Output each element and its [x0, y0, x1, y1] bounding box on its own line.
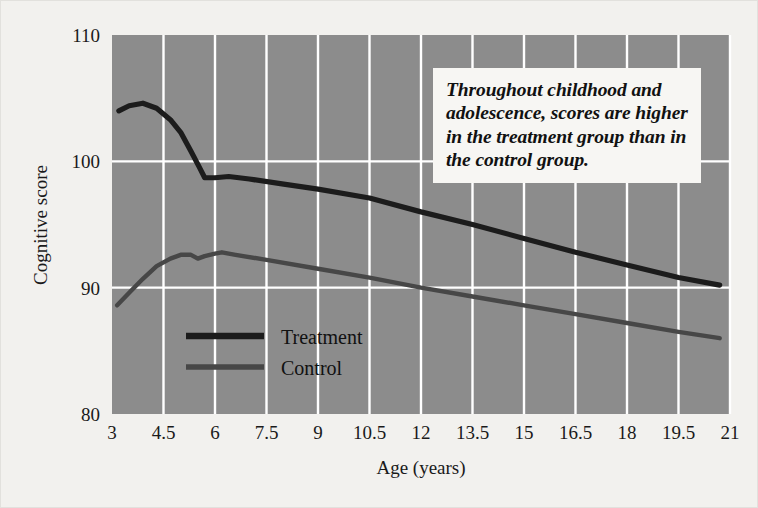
x-axis-tick-labels: 34.567.5910.51213.51516.51819.521: [107, 422, 739, 443]
x-tick-label: 18: [618, 422, 637, 443]
x-tick-label: 9: [313, 422, 323, 443]
x-tick-label: 19.5: [662, 422, 695, 443]
x-tick-label: 6: [210, 422, 220, 443]
legend-label: Control: [281, 357, 343, 379]
x-tick-label: 7.5: [255, 422, 279, 443]
y-tick-label: 110: [72, 25, 100, 46]
y-tick-label: 100: [72, 151, 101, 172]
x-tick-label: 21: [721, 422, 740, 443]
x-tick-label: 15: [515, 422, 534, 443]
y-axis-title: Cognitive score: [30, 165, 51, 285]
legend-label: Treatment: [281, 326, 363, 348]
y-axis-tick-labels: 8090100110: [72, 25, 101, 425]
x-tick-label: 16.5: [559, 422, 592, 443]
x-axis-title: Age (years): [376, 457, 465, 479]
annotation-text: Throughout childhood and adolescence, sc…: [446, 78, 689, 172]
x-tick-label: 13.5: [456, 422, 489, 443]
y-tick-label: 90: [81, 278, 100, 299]
x-tick-label: 4.5: [152, 422, 176, 443]
y-tick-label: 80: [81, 404, 100, 425]
x-tick-label: 10.5: [353, 422, 386, 443]
x-tick-label: 12: [412, 422, 431, 443]
chart-figure: 34.567.5910.51213.51516.51819.521 809010…: [0, 0, 758, 508]
annotation-callout: Throughout childhood and adolescence, sc…: [433, 68, 701, 183]
x-tick-label: 3: [107, 422, 117, 443]
